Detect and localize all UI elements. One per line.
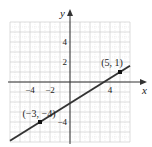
y-axis-label: y — [59, 7, 65, 19]
data-point-marker — [118, 70, 122, 74]
data-point-marker — [38, 120, 42, 124]
y-tick-label: 2 — [63, 57, 68, 67]
x-tick-label: −2 — [45, 85, 55, 95]
coordinate-plane: x y −4−2442−4 (−3, −4)(5, 1) — [0, 0, 152, 147]
x-tick-label: 4 — [108, 85, 113, 95]
y-axis-arrow-icon — [67, 9, 73, 16]
data-point-label: (−3, −4) — [23, 108, 56, 120]
y-tick-label: −4 — [57, 117, 67, 127]
y-tick-label: 4 — [63, 37, 68, 47]
x-axis-label: x — [141, 84, 147, 96]
x-tick-label: −4 — [25, 85, 35, 95]
data-point-label: (5, 1) — [101, 57, 123, 69]
